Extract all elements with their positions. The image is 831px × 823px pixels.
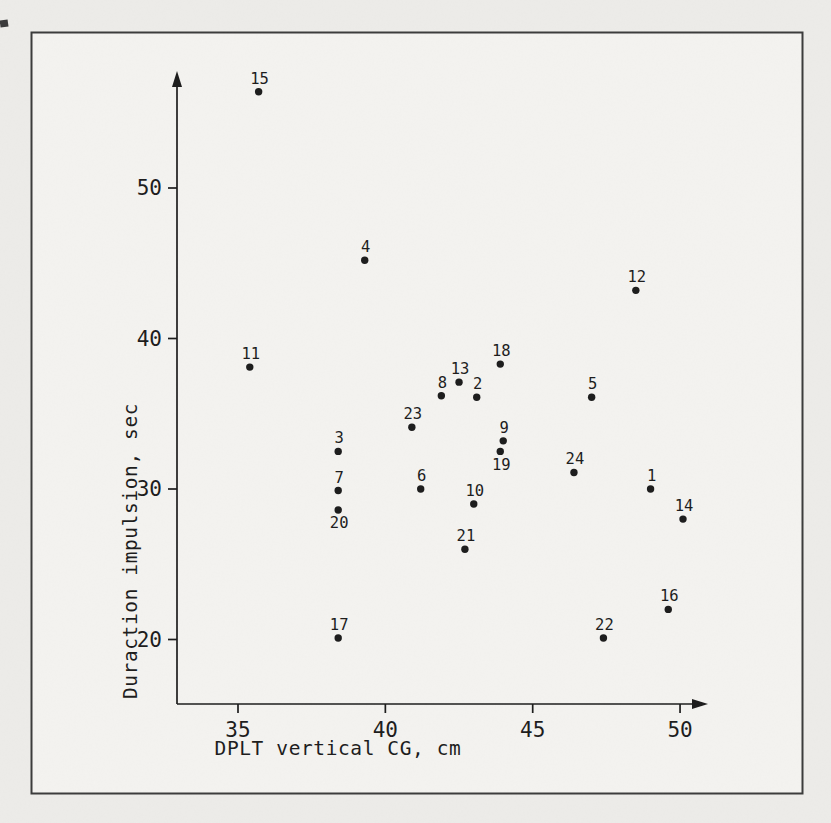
data-point-label: 1 bbox=[647, 467, 656, 485]
data-point-label: 22 bbox=[595, 616, 614, 634]
data-point bbox=[455, 378, 462, 385]
data-point-label: 18 bbox=[492, 342, 511, 360]
data-point bbox=[632, 287, 639, 294]
data-point bbox=[647, 485, 654, 492]
data-point bbox=[588, 393, 595, 400]
data-point-label: 8 bbox=[438, 374, 447, 392]
data-point bbox=[679, 515, 686, 522]
y-axis-tick-label: 40 bbox=[137, 327, 162, 351]
data-point-label: 9 bbox=[500, 419, 509, 437]
data-point bbox=[417, 485, 424, 492]
data-point-label: 2 bbox=[473, 375, 482, 393]
data-point bbox=[334, 487, 341, 494]
y-axis-title: Duraction impulsion, sec bbox=[119, 403, 142, 699]
data-point-label: 10 bbox=[465, 482, 484, 500]
data-point bbox=[255, 88, 262, 95]
data-point bbox=[461, 546, 468, 553]
data-point bbox=[600, 634, 607, 641]
data-point bbox=[665, 606, 672, 613]
data-point bbox=[497, 448, 504, 455]
scatter-plot-figure: 2030405035404550 12345678910111213141516… bbox=[0, 0, 831, 823]
data-point-label: 21 bbox=[457, 527, 476, 545]
data-point-label: 23 bbox=[404, 405, 423, 423]
data-point-label: 16 bbox=[660, 587, 679, 605]
data-point-label: 11 bbox=[241, 345, 260, 363]
data-point-label: 12 bbox=[628, 268, 647, 286]
data-point bbox=[334, 448, 341, 455]
x-axis-title: DPLT vertical CG, cm bbox=[215, 737, 462, 760]
data-point-label: 13 bbox=[451, 360, 470, 378]
data-point-label: 15 bbox=[250, 70, 269, 88]
data-point-label: 17 bbox=[330, 616, 349, 634]
data-point bbox=[408, 424, 415, 431]
data-point-label: 19 bbox=[492, 456, 511, 474]
data-point bbox=[361, 257, 368, 264]
scanned-figure-page: 2030405035404550 12345678910111213141516… bbox=[0, 0, 831, 823]
data-point-label: 4 bbox=[361, 238, 370, 256]
data-point bbox=[570, 469, 577, 476]
data-point-label: 24 bbox=[566, 450, 585, 468]
data-point bbox=[500, 437, 507, 444]
data-point bbox=[470, 500, 477, 507]
x-axis-tick-label: 50 bbox=[667, 718, 692, 742]
y-axis-tick-label: 50 bbox=[137, 176, 162, 200]
data-point-label: 3 bbox=[335, 429, 344, 447]
data-point-label: 5 bbox=[588, 375, 597, 393]
scan-artifact bbox=[0, 19, 9, 27]
data-point bbox=[473, 393, 480, 400]
data-point-label: 7 bbox=[335, 469, 344, 487]
data-point bbox=[334, 634, 341, 641]
data-point bbox=[246, 363, 253, 370]
data-point bbox=[334, 506, 341, 513]
data-point bbox=[497, 360, 504, 367]
data-point-label: 20 bbox=[330, 514, 349, 532]
x-axis-tick-label: 45 bbox=[520, 718, 545, 742]
data-point-label: 6 bbox=[417, 467, 426, 485]
data-point-label: 14 bbox=[675, 497, 694, 515]
data-point bbox=[438, 392, 445, 399]
